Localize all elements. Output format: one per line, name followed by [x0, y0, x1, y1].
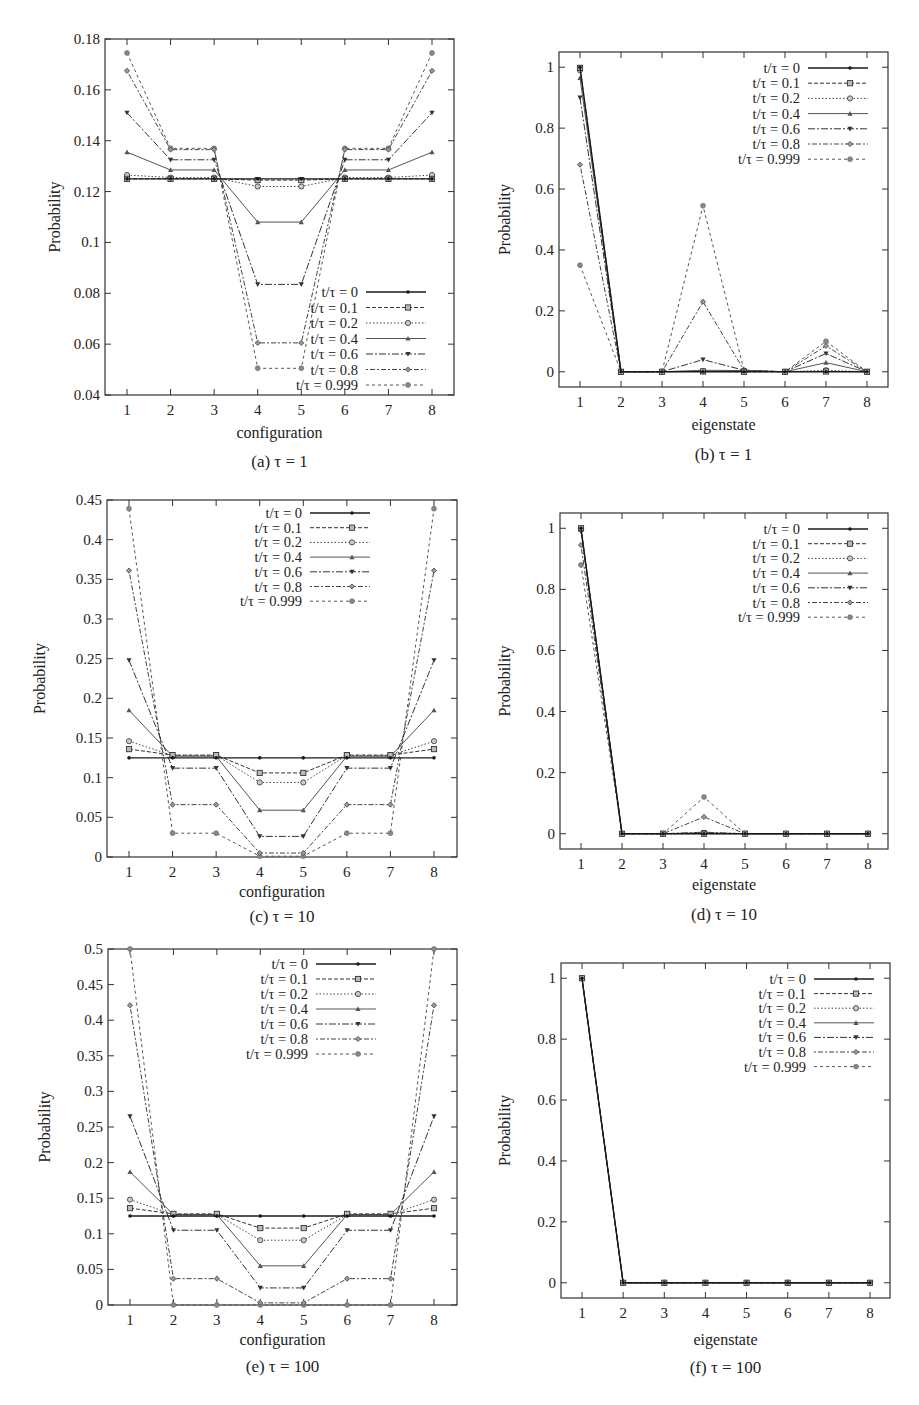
x-tick-label: 6 — [781, 394, 789, 410]
x-tick-label: 4 — [699, 394, 707, 410]
series-line — [581, 530, 868, 834]
legend: t/τ = 0t/τ = 0.1t/τ = 0.2t/τ = 0.4t/τ = … — [240, 505, 370, 609]
panel-caption: (b) τ = 1 — [695, 445, 753, 464]
marker-dot-icon — [128, 1214, 132, 1218]
marker-circle-icon — [301, 780, 306, 785]
series-line — [581, 529, 868, 834]
marker-pentagon-icon — [432, 947, 437, 952]
x-tick-label: 2 — [170, 1312, 178, 1328]
series-line — [581, 528, 868, 833]
marker-dot-icon — [701, 370, 705, 374]
y-tick-label: 0.5 — [84, 941, 103, 957]
y-tick-label: 0.2 — [84, 1155, 103, 1171]
marker-pentagon-icon — [170, 831, 175, 836]
y-tick-label: 0.25 — [76, 651, 102, 667]
series-line — [127, 113, 432, 285]
marker-square-icon — [301, 770, 306, 775]
y-axis-label: Probability — [31, 643, 49, 714]
y-tick-label: 0.15 — [76, 730, 102, 746]
marker-dot-icon — [345, 1214, 349, 1218]
x-tick-label: 3 — [658, 394, 666, 410]
plot-frame — [105, 39, 454, 395]
y-tick-label: 0.6 — [537, 1092, 556, 1108]
y-tick-label: 0.16 — [74, 82, 101, 98]
legend-label: t/τ = 0.999 — [738, 151, 800, 167]
x-tick-label: 6 — [343, 1312, 351, 1328]
x-tick-label: 7 — [822, 394, 830, 410]
marker-diamond-icon — [299, 340, 304, 345]
marker-diamond-icon — [847, 141, 852, 146]
legend-label: t/τ = 0.6 — [753, 121, 800, 137]
series-line — [582, 978, 870, 1283]
x-tick-label: 1 — [123, 402, 131, 418]
marker-square-icon — [405, 305, 410, 310]
x-tick-label: 4 — [254, 402, 262, 418]
marker-dot-icon — [430, 177, 434, 181]
marker-pentagon-icon — [854, 1064, 859, 1069]
marker-dot-icon — [660, 370, 664, 374]
x-tick-label: 5 — [300, 864, 308, 880]
x-tick-label: 1 — [125, 864, 133, 880]
marker-dot-icon — [343, 177, 347, 181]
x-tick-label: 6 — [782, 856, 790, 872]
marker-pentagon-icon — [127, 506, 132, 511]
y-tick-label: 0.1 — [84, 1226, 103, 1242]
x-tick-label: 3 — [210, 402, 218, 418]
marker-triangle-down-icon — [823, 351, 828, 356]
series-group — [577, 65, 869, 374]
legend-label: t/τ = 0 — [321, 284, 358, 300]
x-tick-label: 4 — [257, 1312, 265, 1328]
marker-pentagon-icon — [579, 562, 584, 567]
y-tick-label: 0.8 — [535, 120, 554, 136]
figure-canvas: 0.040.060.080.10.120.140.160.1812345678c… — [0, 0, 919, 1405]
marker-triangle-down-icon — [127, 1114, 132, 1119]
marker-diamond-icon — [847, 600, 852, 605]
marker-dot-icon — [824, 370, 828, 374]
series-line — [130, 1172, 434, 1266]
series-line — [580, 98, 867, 372]
marker-circle-icon — [355, 991, 360, 996]
y-tick-label: 0.06 — [74, 336, 101, 352]
marker-triangle-icon — [126, 708, 131, 713]
marker-pentagon-icon — [214, 831, 219, 836]
x-tick-label: 6 — [343, 864, 351, 880]
x-tick-label: 8 — [863, 394, 871, 410]
y-tick-label: 0.35 — [77, 1048, 103, 1064]
marker-diamond-icon — [431, 568, 436, 573]
marker-dot-icon — [356, 962, 360, 966]
legend-label: t/τ = 0.999 — [738, 609, 800, 625]
marker-dot-icon — [580, 976, 584, 980]
legend-label: t/τ = 0.2 — [311, 315, 358, 331]
series-line — [127, 71, 432, 343]
y-tick-label: 1 — [549, 970, 557, 986]
x-tick-label: 2 — [619, 1305, 627, 1321]
series-line — [127, 53, 432, 368]
y-tick-label: 0.05 — [76, 809, 102, 825]
marker-pentagon-icon — [702, 795, 707, 800]
x-tick-label: 1 — [577, 856, 585, 872]
marker-circle-icon — [853, 1006, 858, 1011]
y-tick-label: 0.8 — [536, 581, 555, 597]
y-tick-label: 0.45 — [76, 492, 102, 508]
marker-dot-icon — [825, 832, 829, 836]
marker-dot-icon — [745, 1281, 749, 1285]
legend-label: t/τ = 0.8 — [255, 579, 302, 595]
x-tick-label: 2 — [618, 856, 626, 872]
legend: t/τ = 0t/τ = 0.1t/τ = 0.2t/τ = 0.4t/τ = … — [296, 284, 426, 393]
marker-dot-icon — [172, 1214, 176, 1218]
marker-circle-icon — [257, 780, 262, 785]
panel-caption: (c) τ = 10 — [249, 907, 314, 926]
x-tick-label: 3 — [212, 864, 220, 880]
x-tick-label: 7 — [825, 1305, 833, 1321]
y-tick-label: 0 — [549, 1275, 557, 1291]
marker-triangle-down-icon — [431, 658, 436, 663]
marker-dot-icon — [212, 177, 216, 181]
marker-square-icon — [853, 991, 858, 996]
marker-pentagon-icon — [299, 366, 304, 371]
x-axis-label: configuration — [239, 883, 325, 901]
marker-triangle-down-icon — [255, 282, 260, 287]
plot-frame — [560, 513, 888, 849]
y-tick-label: 0 — [547, 364, 555, 380]
legend-label: t/τ = 0.8 — [759, 1044, 806, 1060]
legend-label: t/τ = 0.8 — [753, 136, 800, 152]
